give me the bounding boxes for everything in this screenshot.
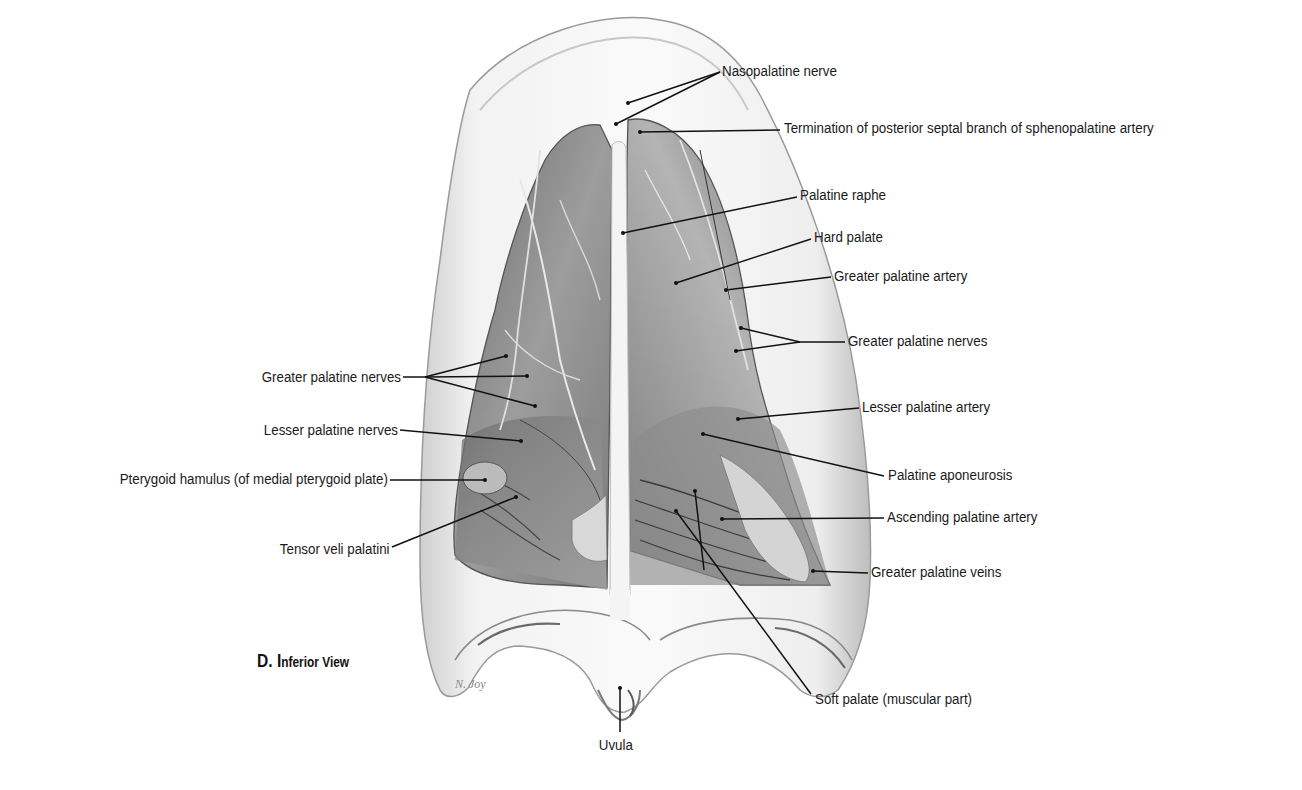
label-palatine-raphe: Palatine raphe (800, 186, 886, 204)
palatine-raphe-shape (610, 142, 630, 595)
label-lesser-palatine-artery: Lesser palatine artery (862, 398, 990, 416)
label-palatine-aponeurosis: Palatine aponeurosis (888, 466, 1013, 484)
label-greater-palatine-nerves-right: Greater palatine nerves (848, 332, 987, 350)
label-nasopalatine-nerve: Nasopalatine nerve (722, 62, 837, 80)
label-posterior-septal-termination: Termination of posterior septal branch o… (784, 119, 1154, 137)
label-greater-palatine-artery: Greater palatine artery (834, 267, 967, 285)
label-soft-palate: Soft palate (muscular part) (815, 690, 972, 708)
label-hard-palate: Hard palate (814, 228, 883, 246)
label-lesser-palatine-nerves: Lesser palatine nerves (264, 421, 398, 439)
label-pterygoid-hamulus: Pterygoid hamulus (of medial pterygoid p… (120, 470, 388, 488)
label-greater-palatine-veins: Greater palatine veins (871, 563, 1001, 581)
label-uvula: Uvula (599, 736, 633, 754)
figure-caption: D. Inferior View (257, 650, 349, 672)
caption-rest: nferior View (281, 654, 349, 670)
label-ascending-palatine-artery: Ascending palatine artery (887, 508, 1037, 526)
label-greater-palatine-nerves-left: Greater palatine nerves (262, 368, 401, 386)
label-tensor-veli-palatini: Tensor veli palatini (280, 540, 390, 558)
palate-figure: N. Joy (0, 0, 1302, 790)
caption-prefix: D. I (257, 650, 281, 671)
artist-signature: N. Joy (454, 677, 486, 691)
